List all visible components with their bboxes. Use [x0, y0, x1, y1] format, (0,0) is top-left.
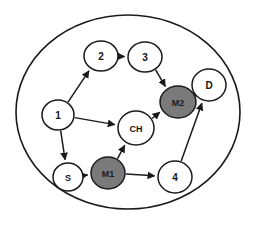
node-2[interactable]: 2 — [84, 41, 118, 71]
node-shape-S[interactable] — [53, 163, 83, 191]
node-3[interactable]: 3 — [128, 42, 162, 72]
node-1[interactable]: 1 — [42, 100, 74, 130]
node-CH[interactable]: CH — [118, 111, 154, 145]
node-shape-M2[interactable] — [160, 86, 196, 118]
edge-S-to-M1 — [84, 175, 88, 176]
node-M1[interactable]: M1 — [91, 157, 125, 189]
node-shape-M1[interactable] — [91, 157, 125, 189]
node-shape-D[interactable] — [192, 69, 226, 101]
node-S[interactable]: S — [53, 163, 83, 191]
diagram-canvas: 123SM1CHM24D — [0, 0, 254, 230]
node-shape-3[interactable] — [128, 42, 162, 72]
graph-diagram: 123SM1CHM24D — [0, 0, 254, 230]
node-shape-CH[interactable] — [118, 111, 154, 145]
node-shape-2[interactable] — [84, 41, 118, 71]
node-M2[interactable]: M2 — [160, 86, 196, 118]
node-D[interactable]: D — [192, 69, 226, 101]
node-shape-1[interactable] — [42, 100, 74, 130]
node-4[interactable]: 4 — [158, 161, 192, 193]
node-shape-4[interactable] — [158, 161, 192, 193]
